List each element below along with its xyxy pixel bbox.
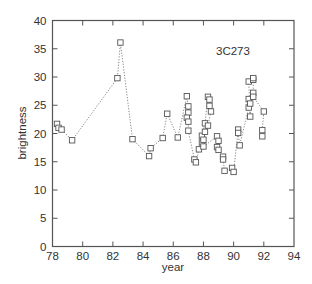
series-line xyxy=(57,43,264,172)
data-point-marker xyxy=(146,153,151,158)
x-tick-label: 78 xyxy=(46,250,59,262)
x-tick-label: 94 xyxy=(288,250,301,262)
data-point-marker xyxy=(201,144,206,149)
data-point-marker xyxy=(251,94,256,99)
data-point-marker xyxy=(201,137,206,142)
data-point-marker xyxy=(115,75,120,80)
data-point-marker xyxy=(184,94,189,99)
y-tick-label: 40 xyxy=(34,15,47,27)
data-point-marker xyxy=(69,138,74,143)
data-point-marker xyxy=(261,109,266,114)
y-tick-label: 15 xyxy=(34,156,47,168)
data-point-marker xyxy=(207,103,212,108)
data-point-marker xyxy=(186,104,191,109)
y-tick-label: 35 xyxy=(34,43,47,55)
data-point-marker xyxy=(222,168,227,173)
data-point-marker xyxy=(260,127,265,132)
y-tick-label: 0 xyxy=(40,241,46,253)
data-point-marker xyxy=(59,127,64,132)
y-axis-label: brightness xyxy=(16,106,28,159)
data-point-marker xyxy=(237,143,242,148)
data-point-marker xyxy=(220,157,225,162)
x-tick-label: 84 xyxy=(137,250,150,262)
data-point-marker xyxy=(186,110,191,115)
data-point-marker xyxy=(130,136,135,141)
data-point-marker xyxy=(148,145,153,150)
x-tick-label: 92 xyxy=(257,250,270,262)
plot-frame xyxy=(53,21,295,247)
data-point-marker xyxy=(207,97,212,102)
data-point-marker xyxy=(248,114,253,119)
chart: 7880828486889092940510152025303540 3C273… xyxy=(0,0,312,284)
data-point-marker xyxy=(235,130,240,135)
data-point-marker xyxy=(216,138,221,143)
data-point-marker xyxy=(248,101,253,106)
data-point-marker xyxy=(260,134,265,139)
data-point-marker xyxy=(193,160,198,165)
data-point-marker xyxy=(165,111,170,116)
data-point-marker xyxy=(205,123,210,128)
data-point-marker xyxy=(186,128,191,133)
source-label: 3C273 xyxy=(216,45,250,57)
y-tick-label: 10 xyxy=(34,184,47,196)
data-point-marker xyxy=(208,109,213,114)
data-point-marker xyxy=(186,119,191,124)
x-tick-label: 88 xyxy=(197,250,210,262)
data-point-marker xyxy=(216,147,221,152)
x-tick-label: 90 xyxy=(227,250,240,262)
data-point-marker xyxy=(160,135,165,140)
brightness-time-series-chart: 7880828486889092940510152025303540 3C273… xyxy=(0,0,312,284)
x-tick-label: 86 xyxy=(167,250,180,262)
data-point-marker xyxy=(118,40,123,45)
y-tick-label: 30 xyxy=(34,71,47,83)
y-tick-label: 20 xyxy=(34,128,47,140)
y-tick-label: 5 xyxy=(40,212,46,224)
data-point-marker xyxy=(202,129,207,134)
x-tick-label: 82 xyxy=(106,250,119,262)
data-point-marker xyxy=(175,135,180,140)
x-tick-label: 80 xyxy=(76,250,89,262)
data-point-marker xyxy=(231,169,236,174)
data-point-marker xyxy=(251,75,256,80)
y-tick-label: 25 xyxy=(34,99,47,111)
data-series xyxy=(54,40,266,175)
x-axis-label: year xyxy=(162,261,185,273)
